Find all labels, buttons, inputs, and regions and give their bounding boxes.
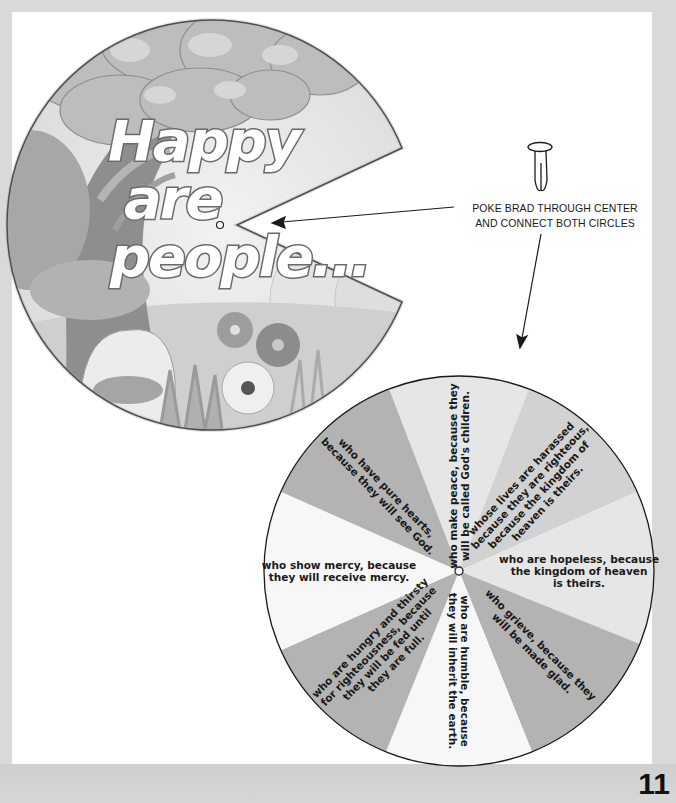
- craft-artwork: Happy are people... who make peace, beca…: [0, 0, 676, 803]
- instruction-text: POKE BRAD THROUGH CENTER AND CONNECT BOT…: [455, 201, 655, 231]
- center-hole-wheel[interactable]: [455, 567, 463, 575]
- instruction-line-2: AND CONNECT BOTH CIRCLES: [455, 216, 655, 231]
- wheel-text-humble: who are humble, becausethey will inherit…: [447, 593, 471, 750]
- center-hole-top[interactable]: [217, 222, 224, 229]
- title-line-3: people...: [109, 224, 370, 289]
- top-circle[interactable]: Happy are people...: [0, 0, 450, 450]
- instruction-line-1: POKE BRAD THROUGH CENTER: [455, 201, 655, 216]
- arrow-to-wheel: [517, 234, 541, 348]
- wheel-text-mercy: who show mercy, becausethey will receive…: [262, 559, 416, 583]
- brad-fastener-icon: [528, 143, 552, 191]
- beatitudes-wheel[interactable]: who make peace, because theywill be call…: [262, 376, 659, 766]
- title-line-1: Happy: [108, 108, 304, 173]
- wheel-text-peace: who make peace, because theywill be call…: [447, 383, 471, 568]
- title-line-2: are: [124, 166, 221, 231]
